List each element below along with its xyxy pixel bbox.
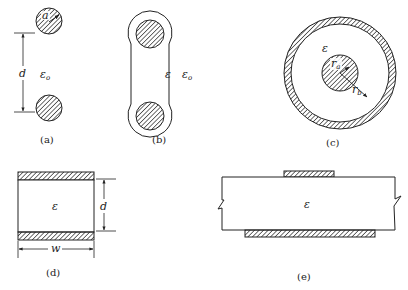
separation-label: d xyxy=(19,67,26,80)
medium-label: εo xyxy=(40,68,50,82)
bottom-plate xyxy=(18,232,94,240)
panel-d: ε d w (d) xyxy=(18,172,116,278)
caption-c: (c) xyxy=(326,137,340,148)
transmission-line-figure: a d εo (a) ε εo (b) ε ra rb (c) ε xyxy=(0,0,408,290)
panel-b: ε εo (b) xyxy=(128,11,192,145)
top-conductor xyxy=(136,20,164,48)
separation-label: d xyxy=(100,200,107,213)
outer-medium-label: εo xyxy=(182,68,192,82)
bottom-conductor xyxy=(36,95,62,121)
width-label: w xyxy=(51,242,61,255)
ground-plane xyxy=(245,230,375,237)
caption-b: (b) xyxy=(152,134,166,145)
outer-radius-label: rb xyxy=(352,83,362,97)
top-plate xyxy=(18,172,94,180)
medium-label: ε xyxy=(52,200,58,213)
bottom-conductor xyxy=(136,102,164,130)
radius-label: a xyxy=(42,9,49,22)
caption-d: (d) xyxy=(46,267,60,278)
panel-a: a d εo (a) xyxy=(14,8,62,145)
top-strip xyxy=(284,171,334,177)
medium-label: ε xyxy=(304,198,310,211)
panel-c: ε ra rb (c) xyxy=(284,17,396,148)
panel-e: ε (e) xyxy=(218,171,401,282)
inner-medium-label: ε xyxy=(165,68,171,81)
caption-a: (a) xyxy=(40,134,54,145)
caption-e: (e) xyxy=(297,271,311,282)
medium-label: ε xyxy=(322,42,328,55)
